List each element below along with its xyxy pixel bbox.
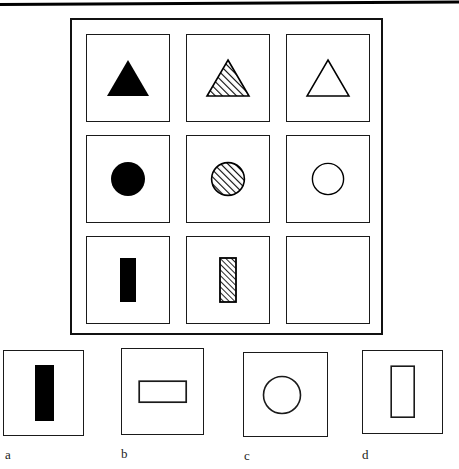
matrix-cell-r1c3[interactable] xyxy=(286,34,370,122)
hatched-vertical-rectangle-icon xyxy=(187,237,269,323)
option-d-label: d xyxy=(362,448,369,461)
solid-triangle-icon xyxy=(87,35,169,121)
option-c-box[interactable] xyxy=(243,352,328,437)
outline-circle-icon xyxy=(287,136,369,222)
option-b-box[interactable] xyxy=(121,348,204,435)
matrix-cell-r2c2[interactable] xyxy=(186,135,270,223)
solid-vertical-rectangle-icon xyxy=(87,237,169,323)
option-d[interactable]: d xyxy=(362,350,443,434)
matrix-cell-r2c1[interactable] xyxy=(86,135,170,223)
matrix-cell-r3c3-missing[interactable] xyxy=(286,236,370,324)
outline-horizontal-rectangle-icon xyxy=(122,349,203,434)
matrix-cell-r2c3[interactable] xyxy=(286,135,370,223)
matrix-cell-r3c1[interactable] xyxy=(86,236,170,324)
option-c[interactable]: c xyxy=(243,352,328,437)
hatched-triangle-icon xyxy=(187,35,269,121)
matrix-cell-r1c1[interactable] xyxy=(86,34,170,122)
option-d-box[interactable] xyxy=(362,350,443,434)
top-horizontal-rule xyxy=(0,1,459,6)
option-b[interactable]: b xyxy=(121,348,204,435)
option-a-label: a xyxy=(5,448,11,461)
matrix-frame xyxy=(70,18,383,335)
matrix-grid xyxy=(86,34,371,323)
option-a-box[interactable] xyxy=(3,350,84,436)
solid-circle-icon xyxy=(87,136,169,222)
empty-cell-placeholder xyxy=(287,237,369,323)
solid-vertical-rectangle-icon xyxy=(4,351,83,435)
answer-options: a b c d xyxy=(0,346,459,469)
outline-circle-icon xyxy=(244,353,327,436)
outline-vertical-rectangle-icon xyxy=(363,351,442,433)
option-a[interactable]: a xyxy=(3,350,84,436)
outline-triangle-icon xyxy=(287,35,369,121)
option-b-label: b xyxy=(121,447,128,460)
hatched-circle-icon xyxy=(187,136,269,222)
option-c-label: c xyxy=(244,449,250,462)
matrix-cell-r1c2[interactable] xyxy=(186,34,270,122)
matrix-cell-r3c2[interactable] xyxy=(186,236,270,324)
